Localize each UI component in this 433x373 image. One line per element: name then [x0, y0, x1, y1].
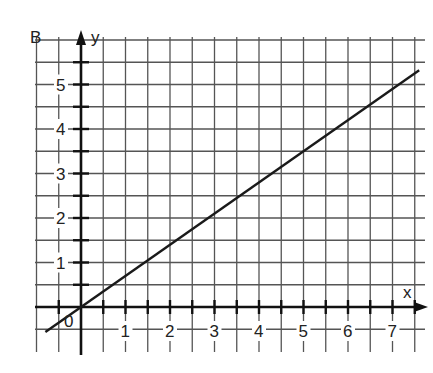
- grid-lines: [35, 37, 425, 352]
- y-axis-label: y: [91, 28, 100, 47]
- x-axis-arrow-icon: [414, 302, 428, 312]
- y-axis-arrow-icon: [76, 30, 86, 45]
- y-tick-label: 3: [56, 165, 65, 184]
- x-tick-label: 6: [343, 322, 352, 341]
- chart: 123456712345 B y x 0: [0, 0, 433, 373]
- x-axis-label: x: [403, 283, 412, 302]
- data-line: [45, 70, 419, 332]
- x-tick-label: 2: [165, 322, 174, 341]
- graph-label: B: [30, 28, 41, 47]
- x-tick-label: 3: [210, 322, 219, 341]
- origin-label: 0: [64, 312, 73, 331]
- x-tick-label: 7: [388, 322, 397, 341]
- y-tick-label: 1: [56, 254, 65, 273]
- axes: [35, 30, 428, 355]
- x-tick-label: 5: [299, 322, 308, 341]
- x-tick-label: 1: [121, 322, 130, 341]
- y-tick-label: 4: [56, 120, 65, 139]
- y-tick-label: 2: [56, 209, 65, 228]
- y-tick-label: 5: [56, 76, 65, 95]
- x-tick-label: 4: [254, 322, 263, 341]
